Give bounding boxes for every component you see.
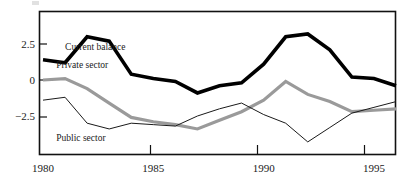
x-tick-marks — [151, 145, 365, 154]
y-tick-label-0: 2.5 — [21, 38, 35, 50]
x-tick-label-1: 1985 — [142, 162, 165, 174]
series-label-public-sector: Public sector — [56, 133, 106, 143]
series-label-private-sector: Private sector — [56, 60, 109, 70]
x-axis-tick-labels: 1980198519901995 — [32, 162, 385, 174]
line-chart: Current balancePrivate sectorPublic sect… — [0, 0, 407, 186]
series-label-current-balance: Current balance — [65, 42, 125, 52]
x-tick-label-3: 1995 — [363, 162, 386, 174]
y-tick-label-2: −2.5 — [15, 110, 35, 122]
y-tick-label-1: 0 — [30, 74, 36, 86]
y-axis-tick-labels: 2.50−2.5 — [15, 38, 35, 122]
x-tick-label-2: 1990 — [253, 162, 276, 174]
x-tick-label-0: 1980 — [32, 162, 55, 174]
chart-figure: Current balancePrivate sectorPublic sect… — [0, 0, 407, 186]
